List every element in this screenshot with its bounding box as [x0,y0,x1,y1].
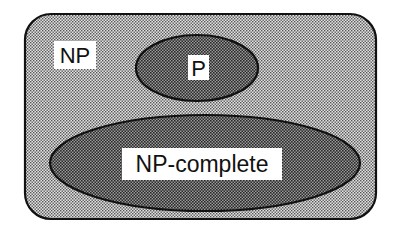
np-complete-label: NP-complete [136,151,269,177]
np-complete-region: NP-complete [50,115,360,211]
p-label: P [191,56,206,81]
complexity-class-diagram: NP P NP-complete [0,0,396,234]
p-region: P [136,35,258,101]
np-label: NP [60,43,91,68]
